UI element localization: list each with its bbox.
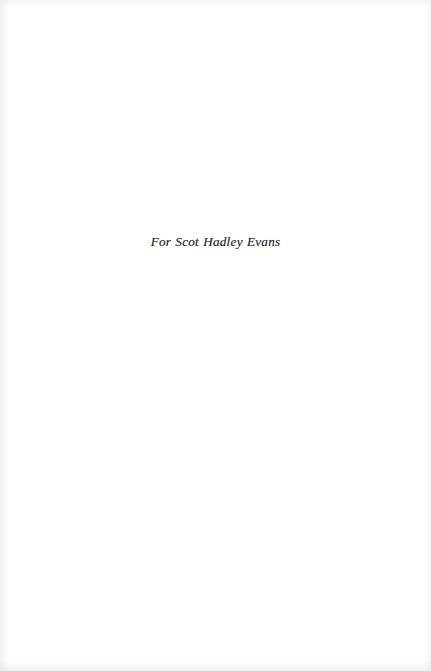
dedication-page: For Scot Hadley Evans [0,0,431,671]
scan-edge-shading [0,0,431,671]
dedication-block: For Scot Hadley Evans [0,232,431,250]
dedication-text: For Scot Hadley Evans [151,234,281,250]
